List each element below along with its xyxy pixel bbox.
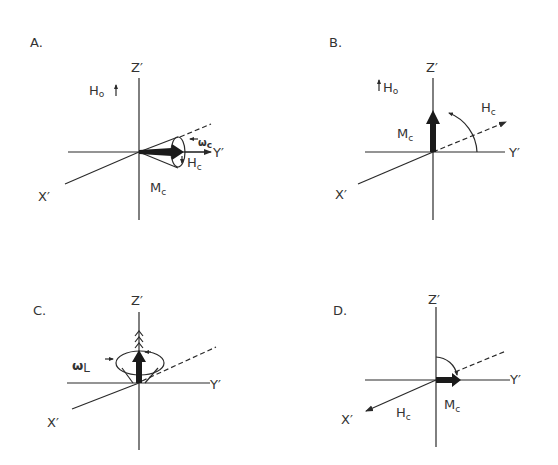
x-axis <box>65 152 139 184</box>
hc-vector-dashed <box>433 122 506 152</box>
z-axis-label: Z′ <box>426 60 438 75</box>
x-axis-label: X′ <box>341 412 353 427</box>
x-axis <box>72 383 139 409</box>
mc-vector-arrow <box>426 110 440 152</box>
hc-label: Hc <box>187 155 202 172</box>
panel-a <box>65 78 211 220</box>
cone-edge-right <box>145 368 158 383</box>
z-axis-label: Z′ <box>131 60 143 75</box>
mc-vector-arrow <box>132 350 146 383</box>
panel-label-d: D. <box>333 303 347 318</box>
ho-label: Ho <box>383 80 399 96</box>
mc-label: Mc <box>397 126 413 143</box>
x-axis-label: X′ <box>47 415 59 430</box>
mc-vector-arrow <box>436 373 461 387</box>
hc-label: Hc <box>396 405 411 422</box>
x-axis <box>358 152 433 184</box>
mc-vector-arrow <box>139 144 184 160</box>
y-axis-label: Y′ <box>209 377 221 392</box>
y-axis-label: Y′ <box>508 145 520 160</box>
rotation-arc <box>449 113 477 152</box>
x-axis-label: X′ <box>335 187 347 202</box>
dashed-direction <box>455 351 506 372</box>
panel-c <box>67 312 216 450</box>
cone-edge-left <box>122 368 133 383</box>
rotation-arc <box>436 357 457 375</box>
omega-l-label: ωL <box>72 358 90 375</box>
dashed-direction <box>142 347 216 381</box>
panel-label-b: B. <box>329 35 342 50</box>
panel-label-a: A. <box>30 35 43 50</box>
z-axis-label: Z′ <box>131 293 143 308</box>
mc-label: Mc <box>150 180 166 197</box>
panel-d <box>365 307 510 447</box>
y-axis-label: Y′ <box>509 372 521 387</box>
y-axis-label: Y′ <box>212 145 224 160</box>
figure-canvas: A. Z′ Y′ X′ Ho Mc Hc ωc B. Z′ Y′ X′ Ho M… <box>0 0 558 465</box>
panel-label-c: C. <box>33 303 46 318</box>
hc-label: Hc <box>481 100 496 117</box>
x-axis-label: X′ <box>38 189 50 204</box>
omega-c-label: ωc <box>198 137 212 150</box>
mc-label: Mc <box>444 397 460 414</box>
hc-dashed-direction <box>180 124 211 137</box>
z-axis-label: Z′ <box>428 292 440 307</box>
ho-label: Ho <box>89 83 105 99</box>
